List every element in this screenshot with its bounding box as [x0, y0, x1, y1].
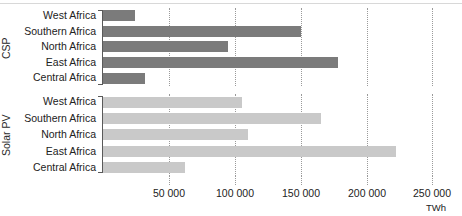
category-label: Southern Africa	[16, 26, 100, 38]
bar-series-csp	[103, 8, 462, 86]
bar-series-solar-pv	[103, 94, 462, 176]
axis-tick-label: 100 000	[216, 187, 254, 199]
chart-panel-csp: CSP West Africa Southern Africa North Af…	[0, 8, 462, 86]
axis-tick-label: 200 000	[348, 187, 386, 199]
category-label: East Africa	[16, 57, 100, 69]
solar-potential-bar-chart: CSP West Africa Southern Africa North Af…	[0, 0, 462, 216]
category-label: East Africa	[16, 146, 100, 158]
bar-pv-west-africa	[103, 97, 242, 108]
bar-row	[103, 73, 462, 84]
category-label: Central Africa	[16, 162, 100, 174]
plot-area-solar-pv	[103, 94, 462, 176]
category-labels-solar-pv: West Africa Southern Africa North Africa…	[16, 94, 100, 176]
bar-row	[103, 10, 462, 21]
bar-pv-southern-africa	[103, 113, 321, 124]
panel-label-csp: CSP	[0, 22, 16, 74]
category-label: West Africa	[16, 10, 100, 22]
x-axis: 50 000 100 000 150 000 200 000 250 000 T…	[103, 176, 462, 216]
bar-csp-north-africa	[103, 41, 228, 52]
bar-row	[103, 57, 462, 68]
category-labels-csp: West Africa Southern Africa North Africa…	[16, 8, 100, 86]
plot-area-csp	[103, 8, 462, 86]
panel-label-solar-pv: Solar PV	[0, 104, 16, 166]
bar-row	[103, 41, 462, 52]
category-label: North Africa	[16, 41, 100, 53]
axis-tick-label: 50 000	[153, 187, 185, 199]
category-label: North Africa	[16, 129, 100, 141]
category-label: Central Africa	[16, 72, 100, 84]
chart-panel-solar-pv: Solar PV West Africa Southern Africa Nor…	[0, 94, 462, 176]
bar-row	[103, 97, 462, 108]
bar-pv-central-africa	[103, 162, 185, 173]
category-label: Southern Africa	[16, 113, 100, 125]
bar-pv-north-africa	[103, 129, 248, 140]
bar-csp-southern-africa	[103, 26, 301, 37]
axis-tick	[301, 176, 302, 185]
axis-tick	[432, 176, 433, 185]
axis-tick-label: 150 000	[282, 187, 320, 199]
bar-row	[103, 26, 462, 37]
bar-row	[103, 146, 462, 157]
bar-pv-east-africa	[103, 146, 396, 157]
bar-csp-east-africa	[103, 57, 338, 68]
axis-tick-label: 250 000	[413, 187, 451, 199]
bar-csp-central-africa	[103, 73, 145, 84]
bar-csp-west-africa	[103, 10, 135, 21]
bar-row	[103, 129, 462, 140]
bar-row	[103, 162, 462, 173]
bar-row	[103, 113, 462, 124]
axis-unit-label: TWh	[426, 202, 446, 213]
axis-tick	[235, 176, 236, 185]
category-label: West Africa	[16, 96, 100, 108]
axis-tick	[169, 176, 170, 185]
top-divider-rule	[0, 3, 462, 4]
axis-tick	[367, 176, 368, 185]
